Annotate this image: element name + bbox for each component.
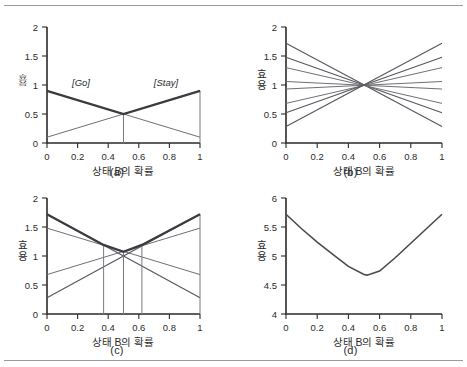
panel-a-xtick-labels: 0 0.2 0.4 0.6 0.8 1 bbox=[44, 151, 202, 162]
xtick-label: 1 bbox=[439, 322, 444, 333]
xtick-label: 0.6 bbox=[132, 151, 145, 162]
ytick-label: 2 bbox=[33, 193, 38, 204]
annotation-stay: [Stay] bbox=[153, 77, 179, 88]
ytick-label: 0 bbox=[272, 138, 277, 149]
ytick-label: 1.5 bbox=[25, 222, 38, 233]
ytick-label: 1.5 bbox=[264, 51, 277, 62]
xtick-label: 0 bbox=[283, 322, 288, 333]
xtick-label: 0.8 bbox=[404, 322, 417, 333]
xtick-label: 0.2 bbox=[311, 151, 324, 162]
xtick-label: 0.4 bbox=[102, 322, 115, 333]
panel-b-caption: (b) bbox=[234, 166, 467, 178]
y-axis-title: 효용 bbox=[255, 240, 267, 262]
panel-c-series bbox=[47, 214, 200, 314]
y-axis-title-char1: 효용 bbox=[16, 75, 28, 86]
figure-block: 0 0.5 1 1.5 2 0 0.2 0.4 0.6 0.8 1 상태 B의 … bbox=[0, 0, 467, 367]
xtick-label: 0.4 bbox=[102, 151, 115, 162]
xtick-label: 0.4 bbox=[342, 151, 355, 162]
panel-grid: 0 0.5 1 1.5 2 0 0.2 0.4 0.6 0.8 1 상태 B의 … bbox=[0, 8, 467, 360]
panel-a-series bbox=[47, 91, 200, 143]
xtick-label: 0.4 bbox=[342, 322, 355, 333]
ytick-label: 5 bbox=[272, 251, 277, 262]
panel-d-plot: 4 4.5 5 5.5 6 0 0.2 0.4 0.6 0.8 1 상태 B의 … bbox=[234, 184, 467, 360]
ytick-label: 1 bbox=[272, 80, 277, 91]
panel-d-series bbox=[286, 214, 442, 275]
ytick-label: 4 bbox=[272, 309, 277, 320]
ytick-label: 1.5 bbox=[25, 51, 38, 62]
y-axis-title: 효용 bbox=[255, 69, 267, 91]
panel-c: 0 0.5 1 1.5 2 0 0.2 0.4 0.6 0.8 1 상태 B의 … bbox=[0, 184, 234, 360]
xtick-label: 0.6 bbox=[373, 151, 386, 162]
panel-a-plot: 0 0.5 1 1.5 2 0 0.2 0.4 0.6 0.8 1 상태 B의 … bbox=[0, 8, 234, 184]
series-expected-utility bbox=[286, 214, 442, 275]
ytick-label: 0.5 bbox=[264, 109, 277, 120]
xtick-label: 0.8 bbox=[163, 322, 176, 333]
ytick-label: 5.5 bbox=[264, 222, 277, 233]
xtick-label: 0 bbox=[283, 151, 288, 162]
ytick-label: 6 bbox=[272, 193, 277, 204]
ytick-label: 1 bbox=[33, 251, 38, 262]
annotation-go: [Go] bbox=[71, 77, 90, 88]
xtick-label: 0.6 bbox=[373, 322, 386, 333]
panel-d: 4 4.5 5 5.5 6 0 0.2 0.4 0.6 0.8 1 상태 B의 … bbox=[234, 184, 467, 360]
series-upper-envelope bbox=[47, 214, 200, 252]
ytick-label: 2 bbox=[33, 22, 38, 33]
xtick-label: 1 bbox=[197, 322, 202, 333]
xtick-label: 0 bbox=[44, 322, 49, 333]
xtick-label: 1 bbox=[439, 151, 444, 162]
panel-d-axes bbox=[281, 198, 442, 319]
xtick-label: 1 bbox=[197, 151, 202, 162]
panel-c-plot: 0 0.5 1 1.5 2 0 0.2 0.4 0.6 0.8 1 상태 B의 … bbox=[0, 184, 234, 360]
ytick-label: 0 bbox=[33, 138, 38, 149]
ytick-label: 0.5 bbox=[25, 280, 38, 291]
panel-d-caption: (d) bbox=[234, 344, 467, 356]
panel-c-caption: (c) bbox=[0, 344, 234, 356]
xtick-label: 0.8 bbox=[163, 151, 176, 162]
xtick-label: 0.6 bbox=[132, 322, 145, 333]
panel-c-axes bbox=[42, 198, 200, 319]
panel-b-series bbox=[286, 43, 442, 126]
figure-bottom-rule bbox=[4, 360, 463, 361]
xtick-label: 0 bbox=[44, 151, 49, 162]
panel-c-xtick-labels: 0 0.2 0.4 0.6 0.8 1 bbox=[44, 322, 202, 333]
xtick-label: 0.8 bbox=[404, 151, 417, 162]
xtick-label: 0.2 bbox=[71, 322, 84, 333]
xtick-label: 0.2 bbox=[311, 322, 324, 333]
panel-b: 0 0.5 1 1.5 2 0 0.2 0.4 0.6 0.8 1 상태 B의 … bbox=[234, 8, 467, 184]
ytick-label: 1 bbox=[33, 80, 38, 91]
ytick-label: 0.5 bbox=[25, 109, 38, 120]
series-upper-envelope bbox=[47, 91, 200, 114]
panel-a: 0 0.5 1 1.5 2 0 0.2 0.4 0.6 0.8 1 상태 B의 … bbox=[0, 8, 234, 184]
panel-d-xtick-labels: 0 0.2 0.4 0.6 0.8 1 bbox=[283, 322, 444, 333]
figure-top-rule bbox=[4, 5, 463, 6]
panel-b-plot: 0 0.5 1 1.5 2 0 0.2 0.4 0.6 0.8 1 상태 B의 … bbox=[234, 8, 467, 184]
panel-b-xtick-labels: 0 0.2 0.4 0.6 0.8 1 bbox=[283, 151, 444, 162]
y-axis-title: 효용 bbox=[16, 240, 28, 262]
panel-a-annotations: [Go] [Stay] bbox=[71, 77, 178, 88]
panel-a-caption: (a) bbox=[0, 166, 234, 178]
xtick-label: 0.2 bbox=[71, 151, 84, 162]
ytick-label: 4.5 bbox=[264, 280, 277, 291]
ytick-label: 2 bbox=[272, 22, 277, 33]
ytick-label: 0 bbox=[33, 309, 38, 320]
